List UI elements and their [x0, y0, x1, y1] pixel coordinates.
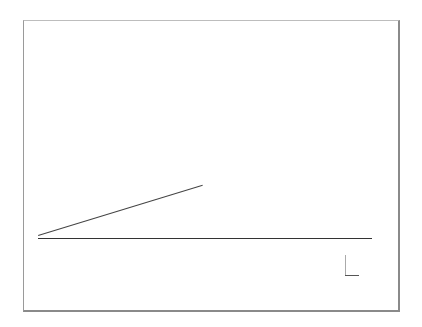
triad-y-axis [345, 255, 346, 275]
coordinate-triad [343, 251, 383, 285]
triad-x-axis [345, 275, 359, 276]
diagonal-element-line [38, 185, 203, 236]
horizontal-element-line [38, 238, 372, 239]
graphics-window[interactable] [23, 20, 400, 312]
